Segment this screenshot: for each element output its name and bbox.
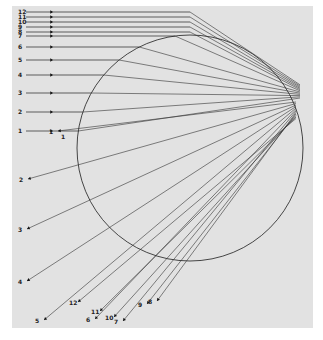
ray-label: 7 <box>114 318 118 325</box>
ray-label: 2 <box>18 108 22 115</box>
ray-label: 12 <box>69 299 77 306</box>
ray-label: 3 <box>18 89 22 96</box>
ray-label: 7 <box>18 32 22 39</box>
ray-label: 5 <box>18 56 22 63</box>
ray-label: 5 <box>35 317 39 324</box>
ray-label: 4 <box>18 278 22 285</box>
ray-label: 9 <box>138 301 142 308</box>
ray-label: 4 <box>18 71 22 78</box>
ray-label: 1 <box>49 128 53 135</box>
ray-label: 6 <box>86 316 90 323</box>
ray-diagram: 121110987654321123456789101112 1 <box>0 0 323 340</box>
paper-background <box>12 6 313 328</box>
ray-label: 1 <box>18 127 22 134</box>
ray-label: 3 <box>18 226 22 233</box>
ray-label: 10 <box>105 314 113 321</box>
ray-label: 2 <box>19 176 23 183</box>
ray-label: 8 <box>148 298 152 305</box>
ray-label: 11 <box>91 308 99 315</box>
annotation-label: 1 <box>61 133 65 140</box>
ray-label: 6 <box>18 43 22 50</box>
